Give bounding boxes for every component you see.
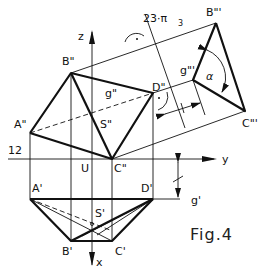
z-label: z: [78, 30, 84, 43]
y-label: y: [222, 153, 229, 166]
top-view: [30, 162, 183, 241]
label-S1: S': [95, 207, 105, 220]
label-g3: g"': [180, 64, 195, 77]
label-g2: g": [105, 87, 117, 100]
projection-lines: [30, 73, 153, 241]
descriptive-geometry-figure: z y x 12 U 23·π 3 B" A" C" D" S" g" B"' …: [0, 0, 260, 272]
label-D1: D': [141, 182, 153, 195]
angle-alpha: α: [206, 70, 214, 83]
plane-label: 23·π: [143, 12, 167, 25]
x-label: x: [96, 256, 103, 269]
label-C1: C': [115, 245, 126, 258]
front-view: [30, 73, 193, 159]
label-D2: D": [152, 81, 166, 94]
label-A2: A": [14, 118, 27, 131]
label-B2: B": [62, 55, 75, 68]
label-B1: B': [62, 245, 73, 258]
label-B3: B"': [206, 6, 222, 19]
plane-subscript: 3: [178, 19, 183, 28]
label-C3: C"': [242, 117, 258, 130]
x-arrow-icon: [89, 252, 95, 266]
y-arrow-icon: [202, 156, 217, 162]
aux-view: [193, 23, 245, 111]
z-arrow-icon: [89, 30, 95, 44]
x12-label: 12: [8, 144, 22, 157]
label-C2: C": [114, 162, 127, 175]
label-g1: g': [191, 194, 201, 207]
label-S2: S": [100, 118, 112, 131]
u-label: U: [81, 162, 89, 175]
label-A1: A': [32, 182, 43, 195]
figure-caption: Fig.4: [190, 225, 233, 244]
